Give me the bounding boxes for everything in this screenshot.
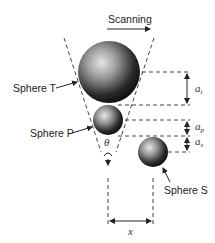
sphere-s-pointer-arrow: [163, 168, 170, 182]
sphere-s-label: Sphere S: [164, 184, 208, 196]
theta-label: θ: [104, 136, 110, 148]
x-label: x: [127, 225, 133, 237]
sphere-t-pointer-arrow: [56, 82, 77, 88]
sphere-t-label: Sphere T: [13, 82, 57, 94]
sphere-p: [93, 105, 123, 135]
theta-arc-icon: [104, 153, 112, 156]
scanning-label: Scanning: [108, 13, 152, 25]
sphere-p-pointer-arrow: [72, 127, 92, 133]
sphere-scanning-diagram: Scanning at ap as θ x Sphere T Sphere P …: [0, 0, 215, 243]
a-t-label: at: [195, 82, 204, 96]
a-s-label: as: [195, 135, 204, 149]
sphere-t: [78, 41, 140, 103]
a-p-label: ap: [195, 120, 205, 134]
sphere-s: [138, 137, 168, 167]
sphere-p-label: Sphere P: [30, 127, 74, 139]
